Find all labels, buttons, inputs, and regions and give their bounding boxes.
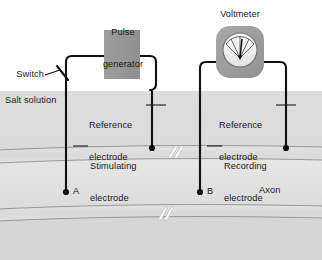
reference-electrode-left-line1: Reference	[89, 120, 132, 131]
figure-container: Pulse generator Voltmeter Switch Salt so…	[0, 0, 322, 260]
switch-label: Switch	[0, 69, 44, 80]
reference-tip-right	[283, 145, 289, 151]
electrode-tip-b	[197, 189, 203, 195]
stimulating-electrode-line2: electrode	[90, 193, 137, 204]
diagram-canvas	[0, 0, 322, 260]
axon-interior	[0, 159, 322, 209]
salt-solution-label: Salt solution	[5, 95, 56, 106]
pulse-generator-label-line2: generator	[85, 59, 161, 70]
stimulating-electrode-label: Stimulating electrode	[90, 140, 137, 225]
recording-electrode-line1: Recording	[224, 161, 267, 172]
point-b-label: B	[207, 186, 213, 197]
reference-tip-left	[149, 145, 155, 151]
pulse-generator-label-line1: Pulse	[85, 27, 161, 38]
voltmeter-label: Voltmeter	[200, 9, 280, 20]
recording-electrode-label: Recording electrode	[224, 140, 267, 225]
electrode-tip-a	[63, 189, 69, 195]
pulse-generator-label: Pulse generator	[85, 6, 161, 91]
background-regions	[0, 0, 322, 260]
point-a-label: A	[73, 186, 79, 197]
axon-label: Axon	[259, 185, 280, 196]
reference-electrode-right-line1: Reference	[219, 120, 262, 131]
stimulating-electrode-line1: Stimulating	[90, 161, 137, 172]
